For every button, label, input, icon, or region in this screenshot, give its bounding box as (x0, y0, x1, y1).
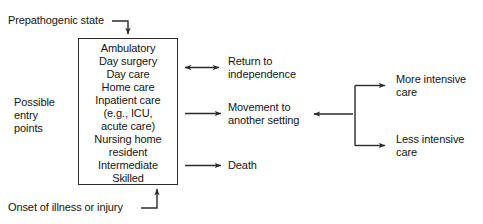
box-item-intermediate: Intermediate (80, 159, 176, 172)
box-item-home-care: Home care (80, 81, 176, 94)
box-item-day-surgery: Day surgery (80, 55, 176, 68)
connector-prepathogenic (112, 21, 128, 34)
label-movement-to-another-setting: Movement to another setting (228, 101, 299, 127)
box-item-day-care: Day care (80, 68, 176, 81)
box-item-acute-care: acute care) (80, 120, 176, 133)
label-less-intensive-care: Less intensive care (396, 133, 464, 159)
box-item-ambulatory: Ambulatory (80, 42, 176, 55)
diagram-canvas: Prepathogenic state Possible entry point… (0, 0, 483, 224)
label-prepathogenic-state: Prepathogenic state (8, 14, 104, 27)
label-return-to-independence: Return to independence (228, 55, 296, 81)
label-more-intensive-care: More intensive care (396, 73, 466, 99)
label-possible-entry-points: Possible entry points (14, 96, 55, 136)
box-item-nursing-home: Nursing home (80, 133, 176, 146)
box-item-skilled: Skilled (80, 172, 176, 185)
box-item-inpatient-care: Inpatient care (80, 94, 176, 107)
label-onset-of-illness: Onset of illness or injury (8, 201, 123, 214)
connector-onset (141, 189, 157, 208)
intensity-branch-bracket (314, 86, 385, 146)
box-item-icu: (e.g., ICU, (80, 107, 176, 120)
box-item-resident: resident (80, 146, 176, 159)
label-death: Death (228, 159, 257, 172)
